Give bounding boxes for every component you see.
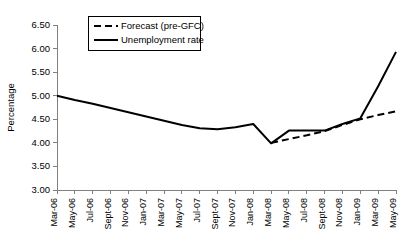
x-tick-label: Sept-08 [317, 198, 327, 230]
y-tick-label: 3.50 [32, 160, 51, 171]
x-tick-label: May-08 [281, 198, 291, 228]
x-tick-label: Jul-07 [192, 198, 202, 223]
x-tick-label: Nov-06 [120, 198, 130, 227]
unemployment-forecast-line-chart: 3.003.504.004.505.005.506.006.50 Mar-06M… [0, 0, 411, 250]
x-tick-label: Mar-08 [263, 198, 273, 227]
y-tick-label: 5.50 [32, 66, 51, 77]
chart-background [0, 0, 411, 250]
y-tick-label: 4.00 [32, 137, 51, 148]
legend-entry-label: Forecast (pre-GFC) [121, 20, 204, 31]
chart-legend: Forecast (pre-GFC)Unemployment rate [88, 16, 204, 50]
y-tick-label: 6.50 [32, 19, 51, 30]
x-tick-label: Mar-06 [49, 198, 59, 227]
x-tick-label: Jan-09 [352, 198, 362, 226]
x-tick-label: Nov-08 [334, 198, 344, 227]
x-tick-label: Jul-06 [85, 198, 95, 223]
chart-container: 3.003.504.004.505.005.506.006.50 Mar-06M… [0, 0, 411, 250]
x-tick-label: Sept-06 [103, 198, 113, 230]
x-tick-label: May-07 [174, 198, 184, 228]
x-tick-label: Jul-08 [299, 198, 309, 223]
x-tick-label: May-06 [67, 198, 77, 228]
x-tick-label: Jan-08 [245, 198, 255, 226]
x-tick-label: Mar-09 [370, 198, 380, 227]
legend-entry-label: Unemployment rate [121, 34, 204, 45]
y-axis-title: Percentage [5, 83, 16, 132]
x-tick-label: Mar-07 [156, 198, 166, 227]
x-tick-label: Nov-07 [227, 198, 237, 227]
y-tick-label: 4.50 [32, 113, 51, 124]
x-tick-label: Jan-07 [138, 198, 148, 226]
x-tick-label: May-09 [388, 198, 398, 228]
x-tick-label: Sept-07 [210, 198, 220, 230]
y-tick-label: 5.00 [32, 90, 51, 101]
y-tick-label: 6.00 [32, 43, 51, 54]
y-tick-label: 3.00 [32, 184, 51, 195]
